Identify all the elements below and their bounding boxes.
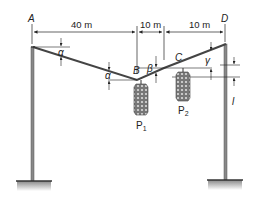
ground-right [207,180,243,190]
angle-gamma-label: γ [205,55,211,66]
load-p1-label: P1 [136,120,147,132]
ground-left [16,181,52,191]
dim-bc: 10 m [140,19,161,30]
point-b: B [133,65,140,76]
load-p2 [176,68,190,101]
offset-l-label: l [232,96,235,107]
angle-alpha-a-label: α [58,47,64,58]
angle-beta-label: β [146,63,153,74]
load-p1 [134,80,148,115]
dim-cd: 10 m [189,19,210,30]
cable-diagram: 40 m 10 m 10 m A B C D α α β γ l [0,0,256,198]
point-d: D [221,13,228,24]
point-c: C [175,52,183,63]
angle-alpha-b-label: α [105,70,111,81]
dim-ab: 40 m [71,19,92,30]
load-p2-label: P2 [178,105,189,117]
point-a: A [27,13,35,24]
pole-a [31,47,35,181]
pole-d [224,44,227,180]
